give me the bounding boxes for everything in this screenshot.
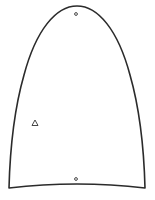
bottom-circle-marker	[75, 178, 78, 181]
dome-outline	[9, 6, 145, 188]
top-circle-marker	[75, 13, 78, 16]
triangle-marker	[32, 120, 38, 126]
dome-diagram	[0, 0, 155, 200]
